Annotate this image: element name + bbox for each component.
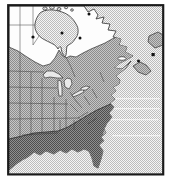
record-dot [31,35,34,38]
lake-michigan [58,80,62,96]
record-dot [88,13,91,16]
record-dot [79,37,82,40]
record-dot [137,60,140,63]
record-square [152,53,155,56]
range-map-canvas [0,0,170,181]
range-map [0,0,170,181]
record-dot [61,32,64,35]
anticosti-island [118,57,126,61]
